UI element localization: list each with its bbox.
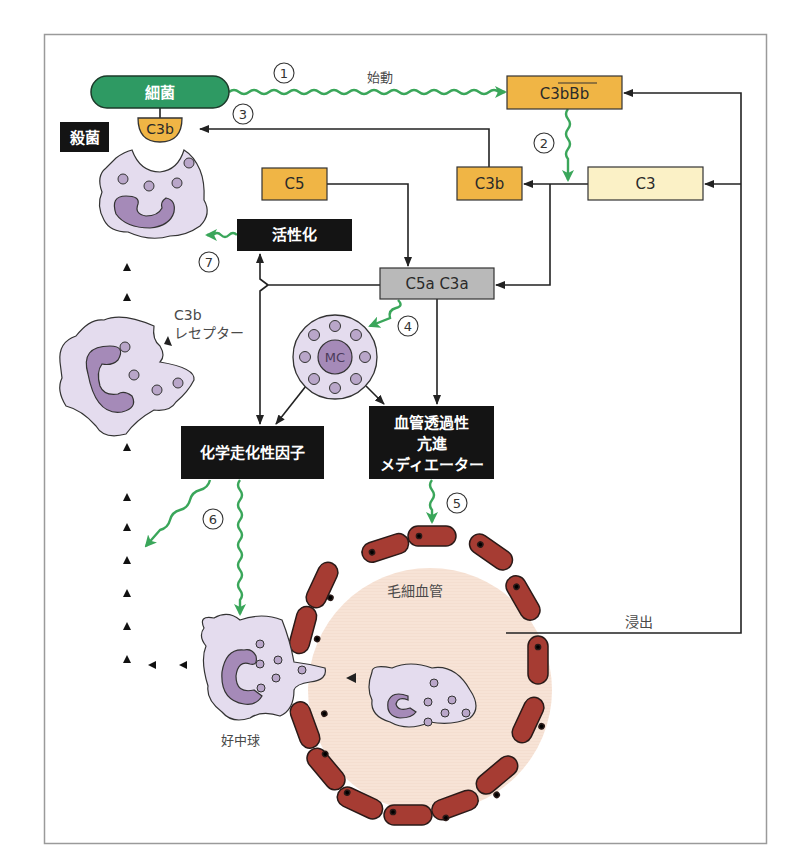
svg-text:C3: C3: [635, 175, 655, 193]
step-5: 5: [447, 493, 467, 513]
initiation-label: 始動: [367, 70, 393, 85]
c3b-node: C3b: [457, 167, 522, 200]
svg-text:C3b: C3b: [146, 121, 174, 137]
svg-text:2: 2: [540, 136, 548, 151]
svg-text:亢進: 亢進: [417, 435, 448, 453]
c3b-receptor-label-2: レセプター: [174, 325, 244, 341]
bacteria-node: 細菌: [91, 76, 229, 108]
neutrophil-label: 好中球: [221, 733, 260, 748]
mast-cell-node: MC: [293, 315, 377, 399]
c3b-receptor-label-1: C3b: [174, 307, 202, 323]
vascular-permeability-node: 血管透過性 亢進 メディエーター: [369, 406, 494, 479]
step-7: 7: [199, 252, 219, 272]
exudation-label: 浸出: [625, 614, 653, 630]
complement-pathway-diagram: 毛細血管 好中球: [0, 0, 799, 866]
step-2: 2: [534, 133, 554, 153]
svg-text:C3b: C3b: [475, 175, 505, 193]
c5a-c3a-node: C5a C3a: [380, 268, 494, 299]
svg-text:メディエーター: メディエーター: [380, 456, 484, 474]
c3bbb-node: C3bBb: [507, 76, 622, 109]
svg-text:5: 5: [453, 496, 461, 511]
svg-text:C3bBb: C3bBb: [540, 85, 589, 103]
step-4: 4: [398, 316, 418, 336]
svg-text:活性化: 活性化: [272, 226, 317, 244]
step-6: 6: [203, 509, 223, 529]
svg-text:6: 6: [209, 512, 217, 527]
svg-text:MC: MC: [325, 350, 345, 365]
svg-text:1: 1: [280, 66, 288, 81]
svg-text:C5a C3a: C5a C3a: [405, 275, 468, 293]
capillary-label: 毛細血管: [387, 583, 443, 599]
svg-text:3: 3: [239, 107, 247, 122]
svg-text:細菌: 細菌: [145, 84, 175, 102]
step-3: 3: [233, 104, 253, 124]
step-1: 1: [274, 63, 294, 83]
c3-node: C3: [588, 167, 703, 200]
activation-node: 活性化: [237, 219, 352, 251]
svg-text:殺菌: 殺菌: [69, 129, 100, 147]
kill-node: 殺菌: [60, 122, 109, 152]
svg-text:化学走化性因子: 化学走化性因子: [200, 444, 305, 462]
svg-text:C5: C5: [284, 175, 304, 193]
svg-text:4: 4: [404, 319, 412, 334]
svg-text:血管透過性: 血管透過性: [394, 414, 469, 432]
svg-text:7: 7: [205, 255, 213, 270]
chemotactic-factor-node: 化学走化性因子: [181, 426, 324, 479]
c5-node: C5: [262, 168, 327, 200]
